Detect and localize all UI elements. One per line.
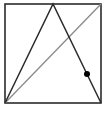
- diagonal-line: [5, 4, 101, 103]
- geometry-figure: [0, 0, 105, 114]
- marked-point: [84, 71, 90, 77]
